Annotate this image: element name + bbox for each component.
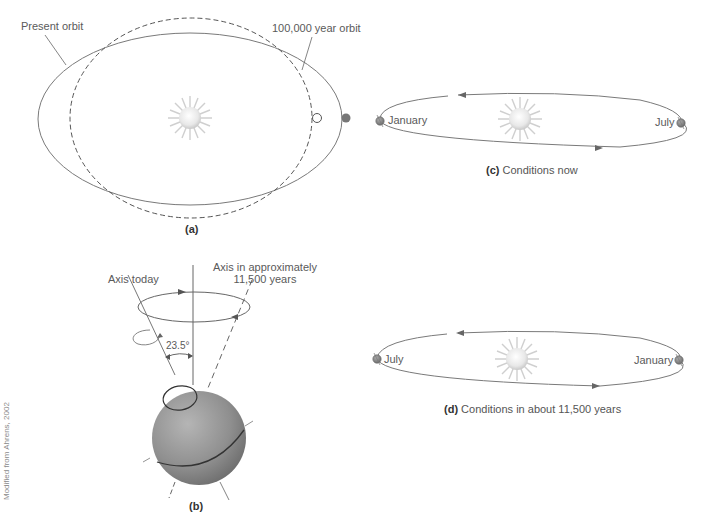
panel-c-caption-text: Conditions now — [503, 164, 578, 176]
precession-arrow-bottom — [231, 314, 238, 320]
present-orbit-leader — [45, 35, 66, 65]
axis-future-label-line2: 11,500 years — [205, 274, 325, 285]
orbit-arrow-top — [458, 92, 466, 98]
panel-b-precession — [128, 265, 253, 500]
january-label: January — [388, 115, 427, 126]
future-orbit-leader — [302, 37, 312, 70]
earth-july-marker — [677, 117, 685, 129]
july-label: July — [655, 117, 675, 128]
axis-future-label: Axis in approximately 11,500 years — [205, 262, 325, 285]
source-credit: Modified from Ahrens, 2002 — [2, 402, 11, 500]
precession-arrow-top — [178, 289, 186, 295]
future-orbit-label: 100,000 year orbit — [272, 23, 361, 34]
panel-c-caption-letter: (c) — [486, 164, 499, 176]
present-orbit-label: Present orbit — [21, 21, 83, 32]
panel-a-orbits — [38, 18, 351, 218]
axis-future-line — [208, 280, 252, 388]
axis-today-line — [128, 275, 175, 375]
january-label: January — [634, 355, 673, 366]
panel-d-caption-letter: (d) — [444, 403, 458, 415]
sun-icon — [168, 96, 212, 140]
axis-today-label: Axis today — [108, 274, 159, 285]
orbit-arrow-top — [456, 330, 464, 336]
earth-globe — [152, 391, 246, 485]
panel-a-caption: (a) — [185, 224, 198, 235]
july-label: July — [384, 354, 404, 365]
earth-future-position — [313, 114, 322, 123]
tilt-angle-label: 23.5° — [166, 341, 189, 351]
orbit-arrow-bottom — [592, 383, 600, 389]
spin-arrow — [133, 330, 160, 345]
sun-icon — [498, 97, 542, 141]
earth-january-marker — [376, 115, 384, 127]
sun-icon — [495, 337, 539, 381]
diagram-canvas — [0, 0, 707, 520]
earth-present-position — [342, 114, 351, 123]
earth-july-marker — [373, 353, 381, 365]
axis-future-label-line1: Axis in approximately — [205, 262, 325, 273]
panel-d-caption: (d) Conditions in about 11,500 years — [444, 404, 621, 415]
panel-b-caption: (b) — [189, 501, 203, 512]
panel-d-caption-text: Conditions in about 11,500 years — [461, 403, 621, 415]
earth-january-marker — [675, 354, 683, 366]
panel-c-caption: (c) Conditions now — [486, 165, 578, 176]
